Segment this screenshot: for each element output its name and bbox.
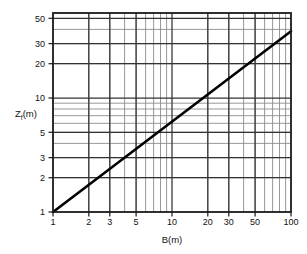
y-tick-label: 2 — [40, 173, 45, 183]
chart-svg: 1 2 3 5 10 20 30 50 100 1 2 3 5 10 20 30… — [0, 0, 307, 254]
x-axis-title: B(m) — [162, 234, 183, 245]
y-tick-label: 1 — [40, 207, 45, 217]
y-tick-label: 30 — [35, 39, 45, 49]
x-tick-label: 1 — [50, 217, 55, 227]
y-axis-title-unit: (m) — [23, 108, 37, 119]
x-tick-label: 5 — [134, 217, 139, 227]
x-tick-label: 20 — [203, 217, 213, 227]
x-tick-label: 3 — [107, 217, 112, 227]
y-tick-label: 20 — [35, 59, 45, 69]
y-tick-label: 3 — [40, 153, 45, 163]
x-tick-label: 50 — [250, 217, 260, 227]
x-tick-label: 2 — [86, 217, 91, 227]
x-tick-marks — [53, 212, 291, 217]
x-tick-label: 10 — [167, 217, 177, 227]
y-tick-label: 5 — [40, 128, 45, 138]
x-tick-label: 30 — [224, 217, 234, 227]
x-tick-label: 100 — [283, 217, 298, 227]
y-tick-label: 10 — [35, 93, 45, 103]
svg-text:Zf(m): Zf(m) — [15, 108, 37, 121]
y-axis-title: Zf(m) — [15, 108, 37, 121]
log-log-chart-figure: 1 2 3 5 10 20 30 50 100 1 2 3 5 10 20 30… — [0, 0, 307, 254]
y-tick-label: 50 — [35, 14, 45, 24]
